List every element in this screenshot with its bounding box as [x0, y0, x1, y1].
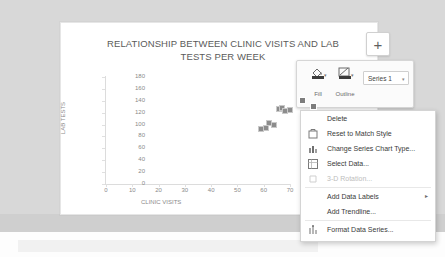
- selection-handle[interactable]: [299, 97, 306, 104]
- y-tick-mark: [102, 125, 105, 126]
- y-tick-mark: [102, 160, 105, 161]
- x-axis-title[interactable]: CLINIC VISITS: [141, 199, 181, 205]
- submenu-arrow-icon: ▸: [425, 189, 428, 204]
- y-tick-mark: [102, 136, 105, 137]
- outline-button-label: Outline: [330, 91, 360, 97]
- menu-item-delete[interactable]: Delete: [301, 111, 435, 126]
- reset-style-icon: [308, 129, 318, 139]
- fill-color-bar: [312, 76, 324, 79]
- scatter-point[interactable]: [267, 121, 271, 125]
- x-tick-label: 50: [227, 187, 247, 193]
- x-tick-mark: [211, 184, 212, 187]
- worksheet-faint-row: [18, 240, 318, 252]
- outline-pen-icon: ▾: [337, 65, 353, 81]
- menu-item-select-data[interactable]: Select Data...: [301, 156, 435, 171]
- x-tick-label: 60: [254, 187, 274, 193]
- scatter-point[interactable]: [264, 126, 268, 130]
- y-tick-mark: [102, 184, 105, 185]
- menu-item-add-trendline[interactable]: Add Trendline...: [301, 204, 435, 219]
- scatter-point[interactable]: [272, 123, 276, 127]
- menu-item-format-data-series[interactable]: Format Data Series...: [301, 222, 435, 237]
- y-tick-mark: [102, 77, 105, 78]
- outline-button[interactable]: ▾ Outline: [330, 65, 360, 97]
- menu-item-label: 3-D Rotation...: [327, 175, 372, 182]
- x-tick-mark: [159, 184, 160, 187]
- menu-item-label: Add Data Labels: [327, 193, 379, 200]
- menu-item-label: Select Data...: [327, 160, 369, 167]
- y-tick-mark: [102, 113, 105, 114]
- menu-item-label: Delete: [327, 115, 347, 122]
- menu-item-add-data-labels[interactable]: Add Data Labels▸: [301, 189, 435, 204]
- menu-separator: [305, 187, 431, 188]
- menu-item-label: Change Series Chart Type...: [327, 145, 415, 152]
- y-tick-mark: [102, 172, 105, 173]
- x-tick-mark: [106, 184, 107, 187]
- scatter-point[interactable]: [259, 127, 263, 131]
- chart-title-line-1: RELATIONSHIP BETWEEN CLINIC VISITS AND L…: [83, 37, 363, 50]
- fill-bucket-icon: ▾: [310, 65, 326, 81]
- fill-button-label: Fill: [303, 91, 333, 97]
- x-tick-label: 0: [96, 187, 116, 193]
- context-menu[interactable]: DeleteReset to Match StyleChange Series …: [300, 110, 436, 242]
- scatter-point[interactable]: [283, 109, 287, 113]
- y-tick-mark: [102, 148, 105, 149]
- rotation-icon: [308, 174, 318, 184]
- y-axis-title[interactable]: LAB TESTS: [60, 102, 66, 134]
- x-tick-label: 70: [280, 187, 300, 193]
- menu-separator: [305, 220, 431, 221]
- menu-item-label: Add Trendline...: [327, 208, 376, 215]
- series-select-caret-icon[interactable]: ▾: [402, 72, 405, 86]
- fill-button[interactable]: ▾ Fill: [303, 65, 333, 97]
- x-tick-mark: [132, 184, 133, 187]
- menu-item-reset-to-match-style[interactable]: Reset to Match Style: [301, 126, 435, 141]
- plot-area[interactable]: [106, 77, 290, 184]
- x-tick-mark: [290, 184, 291, 187]
- format-series-icon: [308, 225, 318, 235]
- fill-caret-icon[interactable]: ▾: [324, 72, 327, 78]
- x-tick-label: 20: [149, 187, 169, 193]
- x-tick-mark: [237, 184, 238, 187]
- x-tick-label: 30: [175, 187, 195, 193]
- x-tick-label: 40: [201, 187, 221, 193]
- menu-item-label: Reset to Match Style: [327, 130, 392, 137]
- y-tick-mark: [102, 89, 105, 90]
- menu-item-label: Format Data Series...: [327, 226, 394, 233]
- outline-caret-icon[interactable]: ▾: [351, 72, 354, 78]
- x-tick-mark: [185, 184, 186, 187]
- series-select-value: Series 1: [368, 75, 392, 82]
- mini-toolbar[interactable]: ▾ Fill ▾ Outline Series 1 ▾: [296, 60, 414, 108]
- scatter-point[interactable]: [288, 108, 292, 112]
- select-data-icon: [308, 159, 318, 169]
- x-tick-mark: [264, 184, 265, 187]
- series-select[interactable]: Series 1 ▾: [363, 71, 409, 85]
- selection-handle[interactable]: [310, 103, 317, 110]
- menu-item-change-series-chart-type[interactable]: Change Series Chart Type...: [301, 141, 435, 156]
- x-tick-label: 10: [122, 187, 142, 193]
- menu-item-3-d-rotation: 3-D Rotation...: [301, 171, 435, 186]
- outline-color-bar: [339, 76, 351, 79]
- y-tick-mark: [102, 101, 105, 102]
- chart-elements-add-button[interactable]: +: [366, 32, 390, 56]
- chart-type-icon: [308, 144, 318, 154]
